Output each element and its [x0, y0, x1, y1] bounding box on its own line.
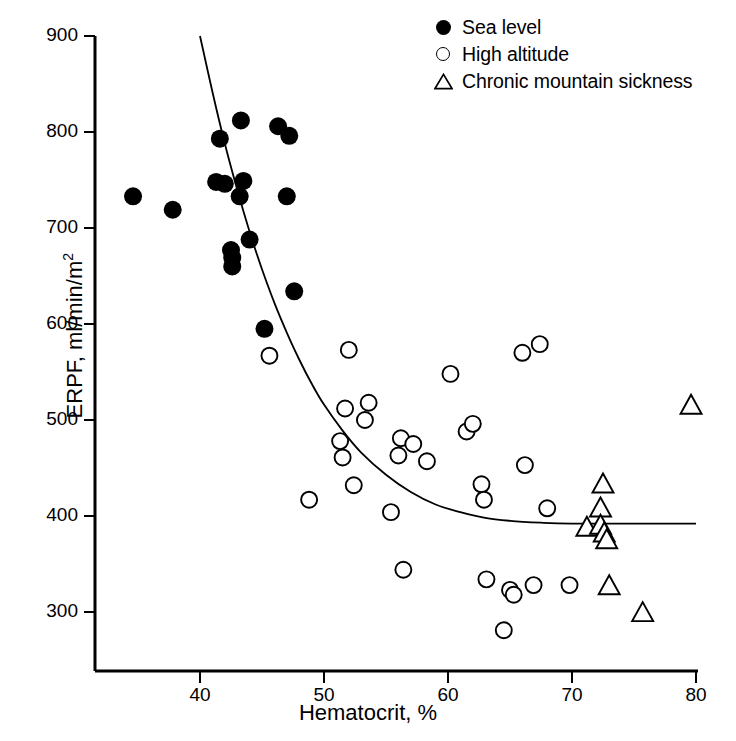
y-tick-label: 800 [18, 120, 78, 142]
y-axis-title-superscript: 2 [60, 253, 76, 261]
y-tick-label: 600 [18, 312, 78, 334]
data-point [164, 201, 182, 219]
data-point [419, 453, 435, 469]
legend-item-chronic-mountain-sickness: Chronic mountain sickness [432, 68, 732, 95]
data-point [261, 348, 277, 364]
y-axis-title-text: ERPF, ml/min/m [62, 261, 87, 419]
series-chronic-mountain-sickness-points [576, 395, 701, 621]
y-tick-label: 500 [18, 408, 78, 430]
chart-legend: Sea level High altitude Chronic mountain… [432, 14, 732, 95]
data-point [241, 231, 259, 249]
data-point [593, 474, 614, 493]
data-point [539, 500, 555, 516]
fit-curve [200, 36, 696, 524]
series-sea-level-points [124, 111, 303, 337]
data-point [232, 111, 250, 129]
y-tick-label: 900 [18, 24, 78, 46]
x-tick-label: 50 [294, 684, 354, 706]
data-point [285, 282, 303, 300]
legend-label-high-altitude: High altitude [462, 41, 569, 68]
data-point [234, 172, 252, 190]
data-point [335, 449, 351, 465]
data-point [390, 448, 406, 464]
data-point [301, 492, 317, 508]
axis-lines [95, 36, 698, 671]
x-tick-label: 70 [542, 684, 602, 706]
data-point [506, 587, 522, 603]
data-point [346, 477, 362, 493]
data-point [337, 400, 353, 416]
data-point [562, 577, 578, 593]
data-point [632, 602, 653, 621]
legend-item-high-altitude: High altitude [432, 41, 732, 68]
series-high-altitude-points [261, 336, 577, 638]
data-point [473, 476, 489, 492]
data-point [211, 130, 229, 148]
legend-label-sea-level: Sea level [462, 14, 541, 41]
data-point [231, 187, 249, 205]
data-point [223, 249, 241, 267]
y-tick-label: 300 [18, 600, 78, 622]
open-circle-icon [432, 41, 462, 68]
y-tick-label: 400 [18, 504, 78, 526]
x-tick-label: 40 [170, 684, 230, 706]
data-point [478, 571, 494, 587]
data-point [532, 336, 548, 352]
legend-item-sea-level: Sea level [432, 14, 732, 41]
chart-figure: Sea level High altitude Chronic mountain… [0, 0, 736, 741]
data-point [681, 395, 702, 414]
data-point [395, 562, 411, 578]
data-point [383, 504, 399, 520]
data-point [341, 342, 357, 358]
data-point [216, 175, 234, 193]
data-point [124, 187, 142, 205]
data-point [361, 395, 377, 411]
data-point [280, 127, 298, 145]
legend-label-chronic-mountain-sickness: Chronic mountain sickness [462, 68, 693, 95]
data-point [514, 345, 530, 361]
data-point [476, 492, 492, 508]
data-point [465, 416, 481, 432]
y-tick-label: 700 [18, 216, 78, 238]
open-triangle-icon [432, 68, 462, 95]
data-point [517, 457, 533, 473]
data-point [357, 412, 373, 428]
data-point [255, 320, 273, 338]
x-axis-ticks [200, 671, 696, 683]
data-point [278, 187, 296, 205]
data-point [599, 575, 620, 594]
x-axis-title: Hematocrit, % [0, 700, 736, 726]
data-point [526, 577, 542, 593]
data-point [442, 366, 458, 382]
scatter-plot-canvas [0, 0, 736, 741]
data-point [332, 433, 348, 449]
x-tick-label: 80 [666, 684, 726, 706]
data-point [405, 436, 421, 452]
x-tick-label: 60 [418, 684, 478, 706]
data-point [496, 622, 512, 638]
y-axis-title: ERPF, ml/min/m2 [60, 106, 87, 566]
filled-circle-icon [432, 14, 462, 41]
